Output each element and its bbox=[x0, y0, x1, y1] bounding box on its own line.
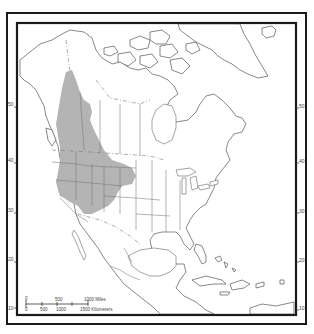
scale-miles-1000: 1000 Miles bbox=[84, 297, 107, 302]
lat-label-left-20: 20 bbox=[8, 256, 14, 262]
florida bbox=[194, 244, 206, 264]
lat-label-left-50: 50 bbox=[8, 101, 14, 107]
lat-label-left-30: 30 bbox=[8, 207, 14, 213]
scale-miles-0: 0 bbox=[25, 296, 28, 301]
lat-label-right-40: 40 bbox=[299, 158, 305, 164]
lat-label-right-30: 30 bbox=[299, 208, 305, 214]
map-content bbox=[20, 24, 294, 314]
lat-label-left-40: 40 bbox=[8, 157, 14, 163]
gulf-of-california bbox=[72, 230, 86, 260]
iceland bbox=[262, 26, 276, 38]
latitude-ticks-right: 50 40 30 20 10 bbox=[296, 103, 305, 311]
lat-label-right-50: 50 bbox=[299, 103, 305, 109]
latitude-ticks-left: 50 40 30 20 10 bbox=[8, 101, 17, 311]
scale-miles-500: 500 bbox=[55, 297, 63, 302]
caribbean-islands bbox=[192, 256, 294, 314]
scale-km-0: 0 bbox=[25, 307, 28, 312]
range-map: 50 40 30 20 10 50 40 30 20 10 0 500 1000… bbox=[0, 0, 314, 334]
scale-km-1500: 1500 Kilometers bbox=[80, 307, 113, 312]
scale-km-500: 500 bbox=[40, 307, 48, 312]
scale-km-1000: 1000 bbox=[56, 307, 67, 312]
scale-bar: 0 500 1000 Miles 0 500 1000 1500 Kilomet… bbox=[25, 296, 113, 312]
lat-label-right-10: 10 bbox=[299, 305, 305, 311]
lat-label-right-20: 20 bbox=[299, 257, 305, 263]
lat-label-left-10: 10 bbox=[8, 305, 14, 311]
